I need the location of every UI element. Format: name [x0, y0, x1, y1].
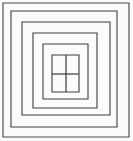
figure-container: Nested Squares Block Line drawing of con… — [0, 0, 133, 141]
nested-squares-diagram: Nested Squares Block Line drawing of con… — [0, 0, 133, 141]
